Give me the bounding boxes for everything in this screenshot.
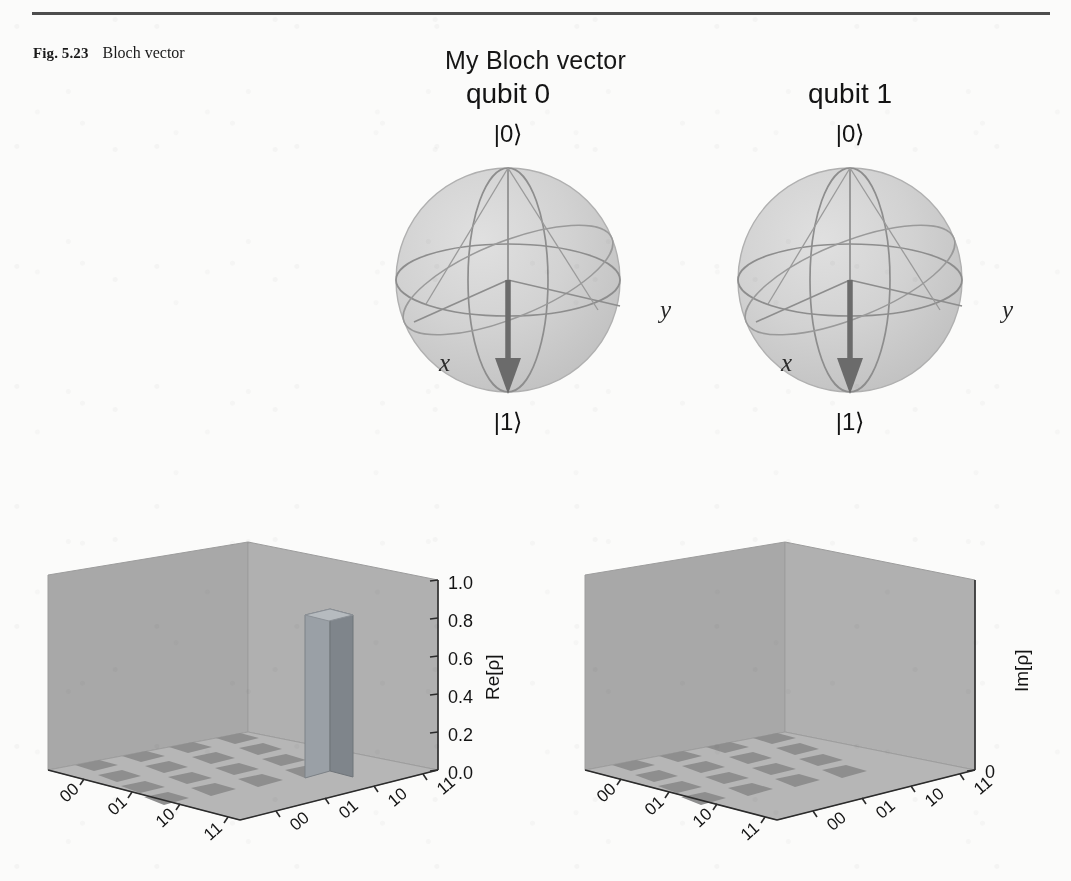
imag-chart-svg	[545, 520, 1045, 860]
chart-wall-left	[48, 542, 248, 770]
bloch-title-qubit-1: qubit 1	[700, 78, 1000, 110]
bloch-title-qubit-0: qubit 0	[358, 78, 658, 110]
z-tick-re-2: 0.4	[448, 687, 473, 708]
bloch-sphere-svg-qubit-1	[734, 154, 966, 406]
z-tick-re-4: 0.8	[448, 611, 473, 632]
sphere-axis-label-x-qubit-0: x	[439, 349, 450, 377]
real-chart-svg	[8, 520, 508, 860]
plot-title: My Bloch vector	[0, 46, 1071, 75]
bloch-sphere-graphic-qubit-1: x y	[734, 154, 966, 406]
ket-one-label-qubit-0: |1⟩	[358, 408, 658, 436]
z-axis-label-real: Re[ρ]	[482, 654, 504, 700]
bloch-sphere-qubit-0: qubit 0 |0⟩	[358, 78, 658, 458]
density-matrix-real-chart: 0.0 0.2 0.4 0.6 0.8 1.0 Re[ρ] 00 01 10 1…	[8, 520, 508, 860]
chart-wall-right	[785, 542, 975, 770]
header-divider	[32, 12, 1050, 15]
ket-zero-label-qubit-1: |0⟩	[700, 120, 1000, 148]
bar-11-11	[305, 609, 353, 778]
z-tick-re-3: 0.6	[448, 649, 473, 670]
z-tick-re-5: 1.0	[448, 573, 473, 594]
z-tick-re-1: 0.2	[448, 725, 473, 746]
z-axis-label-imag: Im[ρ]	[1011, 650, 1033, 692]
sphere-axis-label-x-qubit-1: x	[781, 349, 792, 377]
bloch-sphere-graphic-qubit-0: x y	[392, 154, 624, 406]
bloch-sphere-svg-qubit-0	[392, 154, 624, 406]
density-matrix-imag-chart: 0 Im[ρ] 00 01 10 11 00 01 10 11	[545, 520, 1045, 860]
sphere-axis-label-y-qubit-0: y	[660, 296, 671, 324]
ket-zero-label-qubit-0: |0⟩	[358, 120, 658, 148]
bloch-sphere-qubit-1: qubit 1 |0⟩ x y	[700, 78, 1000, 458]
ket-one-label-qubit-1: |1⟩	[700, 408, 1000, 436]
sphere-axis-label-y-qubit-1: y	[1002, 296, 1013, 324]
chart-wall-left	[585, 542, 785, 770]
